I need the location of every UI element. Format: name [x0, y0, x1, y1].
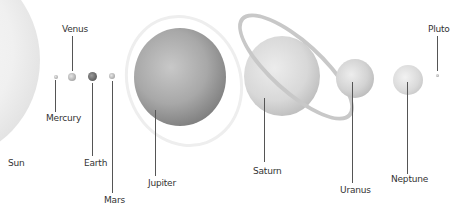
- label-earth: Earth: [84, 158, 107, 168]
- sun-graphic: [0, 0, 40, 160]
- leader-line-jupiter: [155, 110, 156, 176]
- pluto-graphic: [436, 74, 439, 77]
- leader-line-saturn: [264, 98, 265, 162]
- label-mercury: Mercury: [46, 113, 81, 123]
- label-neptune: Neptune: [391, 174, 428, 184]
- jupiter-graphic: [134, 28, 226, 126]
- label-uranus: Uranus: [340, 185, 371, 195]
- mercury-graphic: [54, 75, 58, 79]
- label-venus: Venus: [62, 24, 88, 34]
- label-saturn: Saturn: [253, 166, 282, 176]
- earth-graphic: [88, 72, 97, 81]
- leader-line-mercury: [55, 80, 56, 112]
- leader-line-venus: [72, 36, 73, 71]
- neptune-graphic: [393, 65, 423, 95]
- label-pluto: Pluto: [428, 24, 450, 34]
- label-jupiter: Jupiter: [148, 178, 176, 188]
- uranus-graphic: [336, 59, 374, 98]
- leader-line-mars: [112, 81, 113, 193]
- solar-system-diagram: Sun Mercury Venus Earth Mars Jupiter Sat…: [0, 0, 458, 215]
- leader-line-pluto: [437, 36, 438, 71]
- leader-line-uranus: [352, 82, 353, 183]
- label-mars: Mars: [104, 195, 125, 205]
- venus-graphic: [68, 73, 76, 81]
- mars-graphic: [109, 73, 115, 79]
- leader-line-earth: [92, 83, 93, 156]
- leader-line-neptune: [407, 82, 408, 174]
- label-sun: Sun: [8, 158, 25, 168]
